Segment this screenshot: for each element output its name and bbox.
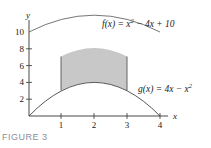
shaded-region (61, 48, 127, 91)
chart: 1 2 3 4 2 4 6 8 10 x y f(x) = x2 − 4x + … (0, 0, 211, 148)
x-tick-4: 4 (158, 120, 163, 130)
x-tick-3: 3 (125, 120, 130, 130)
y-axis-label: y (25, 10, 30, 20)
x-tick-2: 2 (92, 120, 97, 130)
y-tick-6: 6 (20, 61, 25, 71)
y-tick-8: 8 (20, 44, 25, 54)
g-label: g(x) = 4x − x2 (138, 82, 193, 95)
x-axis-label: x (172, 111, 177, 121)
y-tick-10: 10 (15, 27, 25, 37)
figure-caption: FIGURE 3 (2, 132, 48, 142)
f-label: f(x) = x2 − 4x + 10 (102, 17, 175, 30)
y-tick-4: 4 (20, 77, 25, 87)
y-tick-2: 2 (20, 94, 25, 104)
x-tick-1: 1 (59, 120, 64, 130)
